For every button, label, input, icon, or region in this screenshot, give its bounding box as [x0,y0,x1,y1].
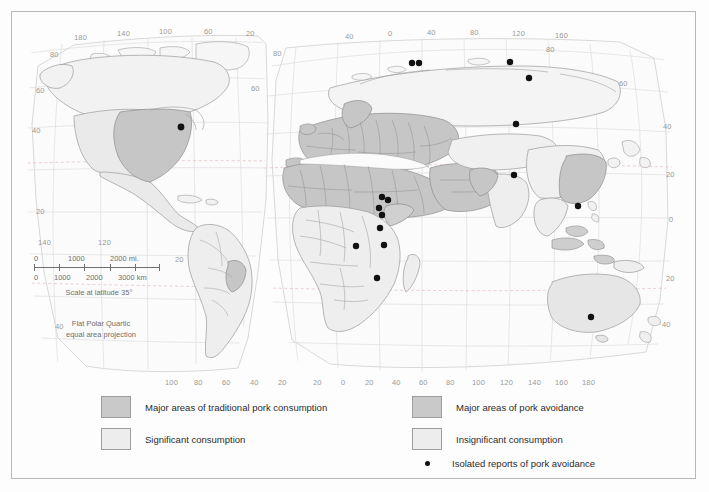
legend-label-isolated-reports: Isolated reports of pork avoidance [452,458,595,469]
left-lat-label-60-east: 60 [251,84,260,93]
right-lat-label-40: 40 [663,122,672,131]
right-bottom-lon-label-80e: 80 [446,378,455,387]
left-lat-label-20-west: 20 [36,207,45,216]
right-bottom-lon-label-20w: 20 [313,378,322,387]
right-bottom-lon-label-120e: 120 [500,378,513,387]
left-inner-lon-label-120: 120 [98,238,111,247]
left-lat-label-40-west: 40 [32,126,41,135]
right-lon-label-40e: 40 [427,28,436,37]
legend-label-significant-consumption: Significant consumption [145,434,245,445]
scale-km-labels: 0 1000 2000 3000 km [34,273,184,283]
legend-swatch-insignificant-consumption [412,428,442,450]
legend-label-insignificant-consumption: Insignificant consumption [456,434,563,445]
left-lat-label-60-west: 60 [36,86,45,95]
left-inner-lon-label-140: 140 [38,238,51,247]
isolated-report-dot-icon [425,461,430,466]
legend-item-isolated-reports: Isolated reports of pork avoidance [412,458,595,469]
legend-label-major-avoidance: Major areas of pork avoidance [456,402,584,413]
left-bottom-lon-label-60: 60 [222,378,231,387]
right-lat-label-40s: 40 [662,320,671,329]
legend-swatch-significant-consumption [101,428,131,450]
right-lon-label-0: 0 [388,29,392,38]
map-legend: Major areas of traditional pork consumpt… [20,392,688,470]
right-lat-label-80: 80 [546,45,555,54]
right-hemisphere-panel [264,38,672,372]
right-bottom-lon-label-20e: 20 [365,378,374,387]
left-bottom-lon-label-40: 40 [250,378,259,387]
left-lon-label-20: 20 [246,29,255,38]
left-lon-label-100: 100 [159,27,172,36]
left-lon-label-180: 180 [74,33,87,42]
right-lat-label-20n: 20 [666,170,675,179]
scale-mi-2000: 2000 mi. [110,254,139,263]
scale-km-3000: 3000 km [118,273,147,283]
right-bottom-lon-label-160e: 160 [555,378,568,387]
legend-item-insignificant-consumption: Insignificant consumption [412,428,563,450]
scale-km-2000: 2000 [86,273,103,283]
isolated-report-dot [178,124,185,131]
left-lat-label-80-west: 80 [50,50,59,59]
scale-caption: Scale at latitude 35° [34,288,164,297]
legend-item-major-avoidance: Major areas of pork avoidance [412,396,584,418]
scale-bar-graphic [34,264,184,272]
legend-swatch-major-consumption [101,396,131,418]
scale-mi-1000: 1000 [68,254,85,263]
legend-label-major-consumption: Major areas of traditional pork consumpt… [145,402,327,413]
right-lon-label-160e: 160 [555,31,568,40]
right-lon-label-80e: 80 [470,28,479,37]
world-map: 180 140 100 60 20 80 60 40 20 40 80 60 2… [0,0,709,492]
left-bottom-lon-label-100: 100 [165,378,178,387]
right-lat-label-60: 60 [619,79,628,88]
projection-note: Flat Polar Quartic equal area projection [26,318,176,340]
legend-item-major-consumption: Major areas of traditional pork consumpt… [101,396,327,418]
left-lat-label-80-east: 80 [273,49,282,58]
scale-km-1000: 1000 [54,273,71,283]
right-lon-label-40w: 40 [345,32,354,41]
right-bottom-lon-label-100e: 100 [472,378,485,387]
projection-note-line2: equal area projection [26,329,176,340]
legend-swatch-major-avoidance [412,396,442,418]
right-bottom-lon-label-180: 180 [582,378,595,387]
right-bottom-lon-label-60e: 60 [419,378,428,387]
left-bottom-lon-label-20: 20 [278,378,287,387]
scale-bar: 0 1000 2000 mi. 0 1000 2000 3000 km Scal… [34,252,184,297]
scale-miles-labels: 0 1000 2000 mi. [34,252,184,263]
right-bottom-lon-label-40e: 40 [392,378,401,387]
scale-km-0: 0 [34,273,38,283]
legend-item-significant-consumption: Significant consumption [101,428,245,450]
projection-note-line1: Flat Polar Quartic [26,318,176,329]
right-lon-label-120e: 120 [512,29,525,38]
map-page: 180 140 100 60 20 80 60 40 20 40 80 60 2… [0,0,709,492]
left-lon-label-60: 60 [204,27,213,36]
right-lat-label-20s: 20 [666,274,675,283]
right-lat-label-0: 0 [669,215,673,224]
right-bottom-lon-label-140e: 140 [528,378,541,387]
scale-mi-0: 0 [34,254,38,263]
right-bottom-lon-label-0: 0 [341,378,345,387]
left-bottom-lon-label-80: 80 [194,378,203,387]
left-lon-label-140: 140 [117,29,130,38]
